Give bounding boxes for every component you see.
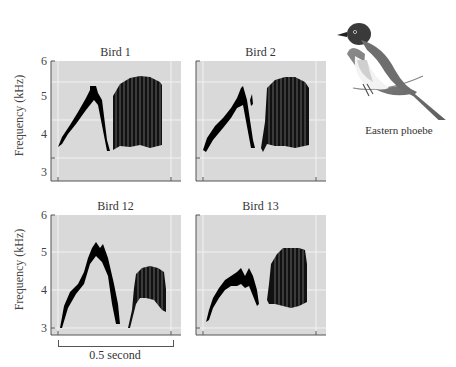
y-axis-label-bottom: Frequency (kHz) [12,215,27,325]
panel-title-bird-2: Bird 2 [195,45,326,60]
bird-caption: Eastern phoebe [344,124,454,136]
ytick-5-bottom: 5 [35,245,47,260]
scale-bar-label: 0.5 second [55,348,175,363]
spectrogram-bird-1 [50,60,181,182]
spectrogram-bird-2 [195,60,326,182]
panel-title-bird-1: Bird 1 [50,45,181,60]
ytick-4-bottom: 4 [35,283,47,298]
ytick-3-top: 3 [35,165,47,180]
scale-bar [58,340,174,347]
ytick-5-top: 5 [35,89,47,104]
ytick-6-bottom: 6 [35,208,47,223]
panel-title-bird-12: Bird 12 [50,199,181,214]
spectrogram-bird-13 [195,214,326,336]
ytick-6-top: 6 [35,54,47,69]
spectrogram-bird-12 [50,214,181,336]
y-axis-label-top: Frequency (kHz) [12,61,27,171]
ytick-4-top: 4 [35,127,47,142]
panel-title-bird-13: Bird 13 [195,199,326,214]
eastern-phoebe-illustration [333,10,456,120]
ytick-3-bottom: 3 [35,321,47,336]
